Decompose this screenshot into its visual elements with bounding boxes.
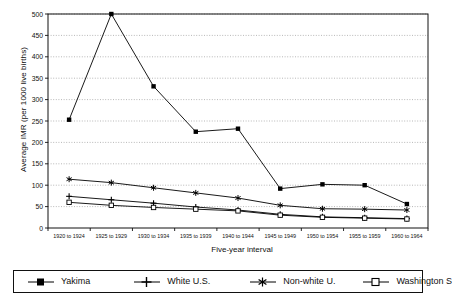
data-point-marker — [320, 182, 324, 186]
y-axis-title: Average IMR (per 1000 live births) — [19, 15, 28, 205]
y-tick-label: 200 — [32, 139, 44, 146]
y-tick-label: 350 — [32, 75, 44, 82]
data-series — [66, 12, 410, 222]
x-tick-label: 1920 to 1924 — [53, 233, 84, 239]
data-point-marker — [194, 207, 198, 211]
plot-area: 050100150200250300350400450500 1920 to 1… — [0, 0, 436, 262]
y-tick-label: 400 — [32, 53, 44, 60]
data-point-marker — [236, 127, 240, 131]
data-point-marker — [194, 130, 198, 134]
data-point-marker — [362, 183, 366, 187]
data-point-marker — [278, 213, 282, 217]
y-tick-label: 300 — [32, 96, 44, 103]
data-point-marker — [109, 203, 113, 207]
legend-swatch-filled-square-icon — [28, 276, 54, 288]
chart-svg: 050100150200250300350400450500 1920 to 1… — [0, 0, 436, 262]
data-point-marker — [236, 209, 240, 213]
data-point-marker — [405, 202, 409, 206]
x-tick-labels: 1920 to 19241925 to 19291930 to 19341935… — [53, 233, 422, 239]
x-tick-label: 1930 to 1934 — [138, 233, 169, 239]
legend-item-non-white-us[interactable]: Non-white U. — [250, 276, 335, 288]
chart-legend: Yakima White U.S. Non-white U. — [13, 270, 423, 293]
legend-swatch-asterisk-icon — [250, 276, 276, 288]
legend-label: Washington S — [396, 277, 452, 286]
x-tick-label: 1950 to 1954 — [307, 233, 338, 239]
series-line — [69, 14, 407, 204]
data-point-marker — [278, 186, 282, 190]
legend-item-washington-state[interactable]: Washington S — [363, 276, 452, 288]
y-tick-label: 50 — [35, 203, 43, 210]
x-tick-label: 1955 to 1959 — [349, 233, 380, 239]
series-yakima — [67, 12, 409, 206]
legend-swatch-plus-icon — [134, 276, 160, 288]
gridlines — [48, 14, 428, 207]
x-tick-label: 1945 to 1949 — [264, 233, 295, 239]
data-point-marker — [405, 217, 409, 221]
y-tick-label: 150 — [32, 160, 44, 167]
y-tick-label: 100 — [32, 182, 44, 189]
data-point-marker — [109, 12, 113, 16]
legend-swatch-open-square-icon — [363, 276, 389, 288]
legend-label: Non-white U. — [283, 277, 335, 286]
legend-label: White U.S. — [167, 277, 210, 286]
data-point-marker — [320, 215, 324, 219]
data-point-marker — [151, 84, 155, 88]
y-tick-label: 500 — [32, 11, 44, 18]
x-tick-label: 1925 to 1929 — [96, 233, 127, 239]
legend-item-white-us[interactable]: White U.S. — [134, 276, 210, 288]
x-tick-label: 1940 to 1944 — [222, 233, 253, 239]
data-point-marker — [362, 216, 366, 220]
y-tick-label: 0 — [39, 225, 43, 232]
y-tick-label: 450 — [32, 32, 44, 39]
data-point-marker — [108, 197, 114, 203]
series-washington-s — [67, 200, 409, 221]
y-tick-label: 250 — [32, 118, 44, 125]
x-tick-label: 1935 to 1939 — [180, 233, 211, 239]
data-point-marker — [67, 200, 71, 204]
data-point-marker — [151, 205, 155, 209]
x-tick-label: 1960 to 1964 — [391, 233, 422, 239]
x-axis-title: Five-year interval — [0, 245, 436, 254]
legend-item-yakima[interactable]: Yakima — [28, 276, 90, 288]
y-tick-labels: 050100150200250300350400450500 — [32, 11, 44, 232]
data-point-marker — [67, 118, 71, 122]
legend-label: Yakima — [61, 277, 90, 286]
data-point-marker — [66, 193, 72, 199]
